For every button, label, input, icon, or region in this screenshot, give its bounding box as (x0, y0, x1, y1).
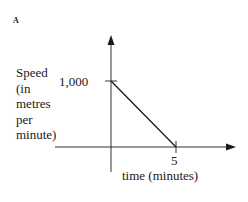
y-axis-arrow-icon (108, 35, 115, 45)
speed-line (111, 81, 176, 147)
plot-area (0, 0, 248, 202)
x-axis-arrow-icon (226, 144, 236, 151)
